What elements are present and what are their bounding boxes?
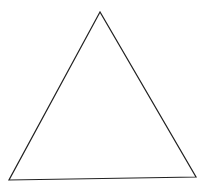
diagram-canvas [0,0,207,191]
triangle-shape [9,12,196,180]
